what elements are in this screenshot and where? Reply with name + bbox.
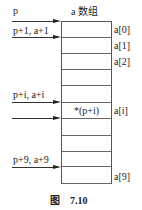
arrow-line (12, 167, 57, 168)
arrow-line (12, 102, 57, 103)
array-cell-7 (62, 136, 111, 152)
index-label-a2: a[2] (114, 57, 130, 67)
index-label-a1: a[1] (114, 41, 130, 51)
pointer-label-pi: p+i, a+i (13, 90, 44, 100)
arrow-head-icon (53, 19, 61, 23)
array-cell-0 (62, 22, 111, 38)
array-title: a 数组 (71, 7, 98, 17)
array-cell-9 (62, 167, 111, 184)
pointer-label-p9: p+9, a+9 (13, 155, 49, 165)
arrow-line (12, 118, 57, 119)
arrow-head-icon (53, 116, 61, 120)
arrow-head-icon (53, 165, 61, 169)
array-cell-6 (62, 119, 111, 136)
array-cell-8 (62, 152, 111, 167)
index-label-a0: a[0] (114, 25, 130, 35)
index-label-ai: a[i] (114, 106, 128, 116)
caption-number: 7.10 (70, 195, 88, 206)
pointer-label-p1: p+1, a+1 (13, 26, 49, 36)
arrow-line (12, 21, 57, 22)
array-cell-3 (62, 70, 111, 86)
array-cell-i: *(p+i) (62, 103, 111, 119)
figure-caption: 图 7.10 (50, 192, 88, 207)
caption-prefix: 图 (50, 195, 60, 206)
arrow-head-icon (53, 35, 61, 39)
index-label-a9: a[9] (114, 172, 130, 182)
pointer-label-p: p (13, 6, 18, 16)
array-cell-1 (62, 38, 111, 54)
cell-content: *(p+i) (62, 106, 111, 116)
array-box: *(p+i) (61, 21, 112, 184)
array-cell-4 (62, 86, 111, 103)
arrow-head-icon (53, 100, 61, 104)
arrow-line (12, 37, 57, 38)
array-cell-2 (62, 54, 111, 70)
